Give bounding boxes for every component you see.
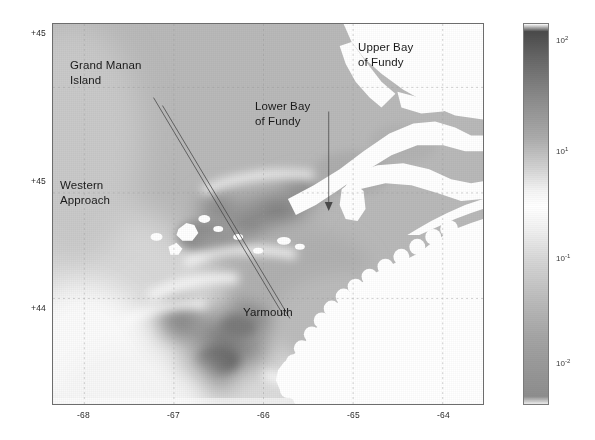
x-tick-label-1: -68: [77, 410, 90, 420]
colorbar-tick-2-exponent: 1: [565, 146, 568, 152]
colorbar-ramp: [524, 24, 548, 404]
y-tick-label-2: +45: [21, 176, 46, 186]
colorbar-tick-1: 102: [556, 35, 568, 46]
colorbar-tick-4: 10-2: [556, 358, 570, 369]
colorbar-tick-1-mantissa: 10: [556, 36, 565, 45]
figure-root: Grand Manan Island Lower Bay of Fundy Up…: [0, 0, 595, 440]
x-tick-label-5: -64: [437, 410, 450, 420]
x-tick-label-4: -65: [347, 410, 360, 420]
x-tick-label-2: -67: [167, 410, 180, 420]
annotation-yarmouth: Yarmouth: [243, 305, 293, 320]
x-tick-label-3: -66: [257, 410, 270, 420]
colorbar-tick-3-mantissa: 10: [556, 254, 565, 263]
colorbar-tick-2: 101: [556, 146, 568, 157]
y-tick-label-3: +44: [21, 303, 46, 313]
annotation-upper-bay-of-fundy: Upper Bay of Fundy: [358, 40, 413, 69]
annotation-western-approach: Western Approach: [60, 178, 110, 207]
annotation-grand-manan-island: Grand Manan Island: [70, 58, 141, 87]
colorbar-tick-1-exponent: 2: [565, 35, 568, 41]
colorbar-tick-4-exponent: -2: [565, 358, 570, 364]
colorbar-gradient: [523, 23, 549, 405]
colorbar-tick-2-mantissa: 10: [556, 147, 565, 156]
colorbar: 102 101 10-1 10-2: [523, 23, 549, 405]
colorbar-tick-3-exponent: -1: [565, 253, 570, 259]
y-tick-label-1: +45: [21, 28, 46, 38]
annotation-lower-bay-of-fundy: Lower Bay of Fundy: [255, 99, 310, 128]
colorbar-tick-3: 10-1: [556, 253, 570, 264]
colorbar-tick-4-mantissa: 10: [556, 359, 565, 368]
